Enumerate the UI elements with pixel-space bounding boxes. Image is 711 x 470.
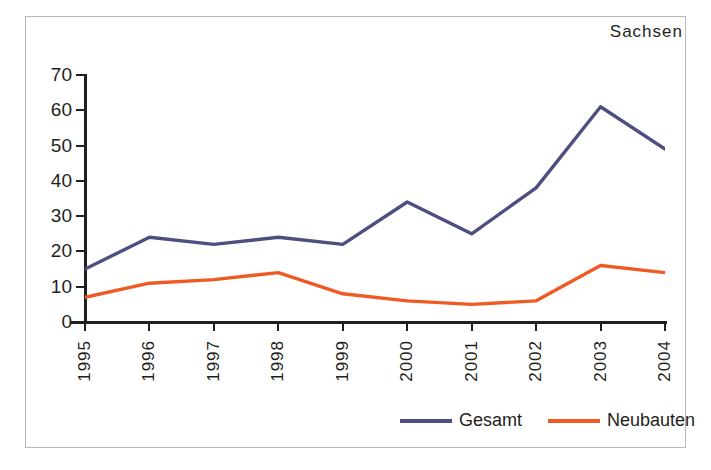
x-axis-tick — [342, 322, 344, 331]
y-axis-labels: 010203040506070 — [24, 0, 72, 470]
y-axis-tick — [76, 286, 84, 288]
legend-label-neubauten: Neubauten — [607, 410, 695, 431]
x-axis-tick-label: 1997 — [205, 340, 222, 382]
y-axis-tick — [76, 145, 84, 147]
x-axis-tick-label: 2002 — [527, 340, 544, 382]
legend-swatch-neubauten — [548, 419, 600, 423]
x-axis-tick-label: 2004 — [656, 340, 673, 382]
x-axis-tick-label: 2003 — [592, 340, 609, 382]
x-axis-tick — [84, 322, 86, 331]
x-axis-tick — [277, 322, 279, 331]
y-axis-tick — [76, 215, 84, 217]
x-axis-tick — [148, 322, 150, 331]
x-axis-tick — [471, 322, 473, 331]
x-axis-tick — [406, 322, 408, 331]
x-axis-tick — [535, 322, 537, 331]
series-lines — [85, 75, 665, 322]
y-axis-tick — [76, 74, 84, 76]
legend-item-gesamt[interactable]: Gesamt — [400, 410, 522, 431]
x-axis-tick-label: 2000 — [398, 340, 415, 382]
series-line-gesamt — [85, 107, 665, 269]
x-axis-tick-label: 1998 — [269, 340, 286, 382]
y-axis-tick-label: 10 — [30, 277, 72, 296]
plot-area — [85, 75, 665, 322]
y-axis-tick — [76, 250, 84, 252]
chart-legend: Gesamt Neubauten — [400, 410, 695, 431]
legend-label-gesamt: Gesamt — [459, 410, 522, 431]
x-axis-tick — [600, 322, 602, 331]
y-axis-tick-label: 40 — [30, 171, 72, 190]
y-axis-tick — [76, 321, 84, 323]
y-axis-tick-label: 0 — [30, 312, 72, 331]
x-axis-tick — [664, 322, 666, 331]
x-axis-tick-label: 1999 — [334, 340, 351, 382]
legend-swatch-gesamt — [400, 419, 452, 423]
y-axis-tick — [76, 180, 84, 182]
chart-title: Sachsen — [610, 22, 683, 42]
y-axis-tick-label: 60 — [30, 100, 72, 119]
y-axis-tick-label: 20 — [30, 241, 72, 260]
series-line-neubauten — [85, 266, 665, 305]
x-axis-tick — [213, 322, 215, 331]
y-axis-tick-label: 70 — [30, 65, 72, 84]
x-axis-tick-label: 2001 — [463, 340, 480, 382]
legend-item-neubauten[interactable]: Neubauten — [548, 410, 695, 431]
y-axis-tick-label: 30 — [30, 206, 72, 225]
x-axis-tick-label: 1995 — [76, 340, 93, 382]
y-axis-tick-label: 50 — [30, 136, 72, 155]
y-axis-tick — [76, 109, 84, 111]
x-axis-tick-label: 1996 — [140, 340, 157, 382]
